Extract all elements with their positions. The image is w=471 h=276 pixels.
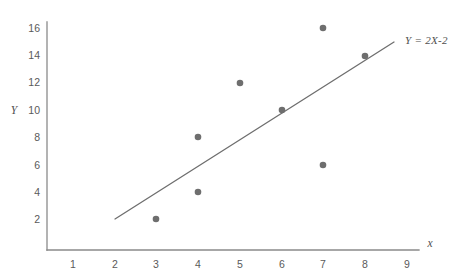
y-tick-label: 12	[28, 76, 40, 88]
y-tick-label: 10	[28, 104, 40, 116]
data-point	[279, 107, 286, 114]
x-tick-label: 5	[237, 258, 243, 270]
data-point	[237, 80, 244, 87]
y-tick-label: 16	[28, 22, 40, 34]
y-tick-label: 14	[28, 49, 40, 61]
x-tick-label: 8	[362, 258, 368, 270]
y-axis-tick-labels: 16 14 12 10 8 6 4 2	[28, 22, 40, 225]
y-tick-label: 8	[34, 131, 40, 143]
y-tick-label: 6	[34, 159, 40, 171]
x-tick-label: 4	[195, 258, 201, 270]
x-axis-tick-labels: 1 2 3 4 5 6 7 8 9	[70, 258, 410, 270]
regression-line	[115, 42, 394, 219]
equation-annotation: Y = 2X-2	[405, 34, 448, 46]
y-tick-label: 2	[34, 213, 40, 225]
x-axis-title: x	[426, 237, 433, 249]
data-point	[153, 216, 160, 223]
y-tick-label: 4	[34, 186, 40, 198]
x-tick-label: 3	[153, 258, 159, 270]
data-point	[320, 162, 327, 169]
y-axis-title: Y	[11, 104, 19, 116]
x-tick-label: 7	[320, 258, 326, 270]
data-point	[195, 189, 202, 196]
plot-canvas: 16 14 12 10 8 6 4 2 1 2 3 4 5 6 7 8 9 Y …	[0, 0, 471, 276]
x-tick-label: 6	[279, 258, 285, 270]
x-tick-label: 2	[112, 258, 118, 270]
data-points-group	[153, 25, 369, 223]
scatter-chart: 16 14 12 10 8 6 4 2 1 2 3 4 5 6 7 8 9 Y …	[0, 0, 471, 276]
data-point	[320, 25, 327, 32]
data-point	[362, 53, 369, 60]
x-tick-label: 9	[404, 258, 410, 270]
data-point	[195, 134, 202, 141]
x-tick-label: 1	[70, 258, 76, 270]
